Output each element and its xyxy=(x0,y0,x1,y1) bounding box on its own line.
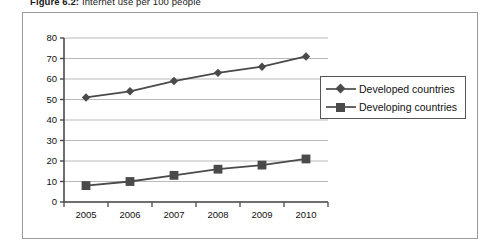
data-point-square xyxy=(302,155,311,164)
y-tick-label: 80 xyxy=(46,32,57,43)
legend-item-developed: Developed countries xyxy=(326,80,460,98)
y-tick-label: 20 xyxy=(46,155,57,166)
y-tick-label: 70 xyxy=(46,53,57,64)
x-tick-label: 2005 xyxy=(75,209,96,220)
y-tick-label: 50 xyxy=(46,94,57,105)
line-chart: 0102030405060708020052006200720082009201… xyxy=(0,0,492,250)
data-point-diamond xyxy=(214,69,222,77)
data-point-diamond xyxy=(170,77,178,85)
legend-label-developed: Developed countries xyxy=(356,83,455,95)
chart-canvas: 0102030405060708020052006200720082009201… xyxy=(0,0,492,250)
x-tick-label: 2007 xyxy=(163,209,184,220)
data-point-diamond xyxy=(126,87,134,95)
y-tick-label: 0 xyxy=(52,196,57,207)
y-tick-label: 60 xyxy=(46,73,57,84)
data-point-square xyxy=(170,171,179,180)
x-tick-label: 2008 xyxy=(207,209,228,220)
chart-legend: Developed countries Developing countries xyxy=(320,76,466,119)
legend-label-developing: Developing countries xyxy=(356,101,457,113)
y-tick-label: 10 xyxy=(46,176,57,187)
x-tick-label: 2009 xyxy=(251,209,272,220)
data-point-diamond xyxy=(82,93,90,101)
y-tick-label: 30 xyxy=(46,135,57,146)
x-tick-label: 2006 xyxy=(119,209,140,220)
y-tick-label: 40 xyxy=(46,114,57,125)
legend-item-developing: Developing countries xyxy=(326,98,460,116)
series-line-diamond xyxy=(86,56,306,97)
data-point-square xyxy=(126,177,135,186)
x-tick-label: 2010 xyxy=(295,209,316,220)
data-point-square xyxy=(82,181,91,190)
data-point-diamond xyxy=(258,63,266,71)
data-point-square xyxy=(258,161,267,170)
data-point-diamond xyxy=(302,52,310,60)
diamond-marker-icon xyxy=(326,82,356,96)
square-marker-icon xyxy=(326,100,356,114)
data-point-square xyxy=(214,165,223,174)
